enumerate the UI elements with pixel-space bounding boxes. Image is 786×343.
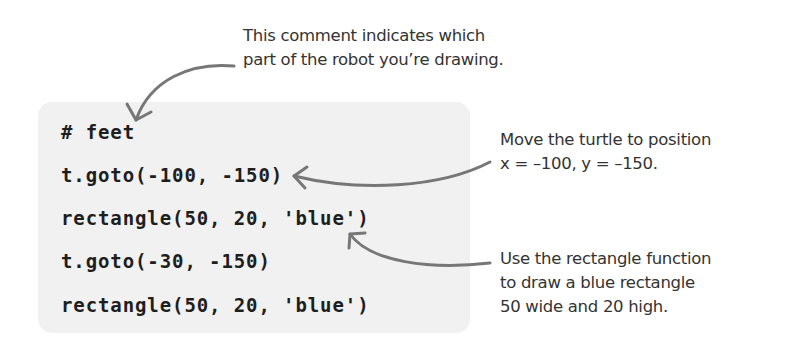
comment-annotation-line-2: part of the robot you’re drawing. <box>243 48 503 72</box>
goto-annotation: Move the turtle to position x = –100, y … <box>500 128 711 176</box>
code-line-goto-1: t.goto(-100, -150) <box>61 164 283 186</box>
comment-annotation-line-1: This comment indicates which <box>243 24 503 48</box>
code-line-comment: # feet <box>61 121 135 143</box>
code-line-goto-2: t.goto(-30, -150) <box>61 250 271 272</box>
code-line-rectangle-1: rectangle(50, 20, 'blue') <box>61 207 369 229</box>
goto-annotation-line-1: Move the turtle to position <box>500 128 711 152</box>
comment-annotation: This comment indicates which part of the… <box>243 24 503 72</box>
rectangle-annotation: Use the rectangle function to draw a blu… <box>500 247 711 319</box>
code-line-rectangle-2: rectangle(50, 20, 'blue') <box>61 294 369 316</box>
goto-annotation-line-2: x = –100, y = –150. <box>500 152 711 176</box>
rectangle-annotation-line-1: Use the rectangle function <box>500 247 711 271</box>
rectangle-annotation-line-3: 50 wide and 20 high. <box>500 295 711 319</box>
rectangle-annotation-line-2: to draw a blue rectangle <box>500 271 711 295</box>
